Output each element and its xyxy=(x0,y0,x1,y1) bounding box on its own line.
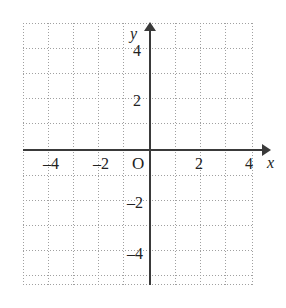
gridline-vertical xyxy=(175,23,176,285)
x-tick-label-minus4: –4 xyxy=(43,156,59,172)
gridline-horizontal xyxy=(23,23,253,24)
coordinate-plane-figure: x y O –4 –2 2 4 4 2 –2 –4 xyxy=(0,0,286,308)
x-tick-label-4: 4 xyxy=(245,156,253,172)
x-axis-label: x xyxy=(267,155,274,171)
origin-label: O xyxy=(132,155,144,172)
y-tick-label-4: 4 xyxy=(133,43,141,59)
gridline-vertical xyxy=(98,23,99,285)
gridline-vertical xyxy=(252,23,253,285)
y-axis-arrow-icon xyxy=(144,22,156,31)
gridline-vertical xyxy=(123,23,124,285)
gridline-horizontal xyxy=(23,123,253,124)
gridline-horizontal xyxy=(23,284,253,285)
gridline-vertical xyxy=(225,23,226,285)
gridline-vertical xyxy=(73,23,74,285)
y-axis-label: y xyxy=(130,26,137,42)
gridline-vertical xyxy=(48,23,49,285)
gridline-horizontal xyxy=(23,175,253,176)
x-axis xyxy=(23,149,266,151)
gridline-horizontal xyxy=(23,275,253,276)
y-tick-label-minus2: –2 xyxy=(127,195,143,211)
y-tick-label-minus4: –4 xyxy=(127,246,143,262)
gridline-horizontal xyxy=(23,225,253,226)
x-tick-label-2: 2 xyxy=(195,156,203,172)
y-tick-label-2: 2 xyxy=(133,93,141,109)
gridline-vertical xyxy=(200,23,201,285)
gridline-vertical xyxy=(23,23,24,285)
x-tick-label-minus2: –2 xyxy=(93,156,109,172)
y-axis xyxy=(149,30,151,285)
gridline-horizontal xyxy=(23,73,253,74)
